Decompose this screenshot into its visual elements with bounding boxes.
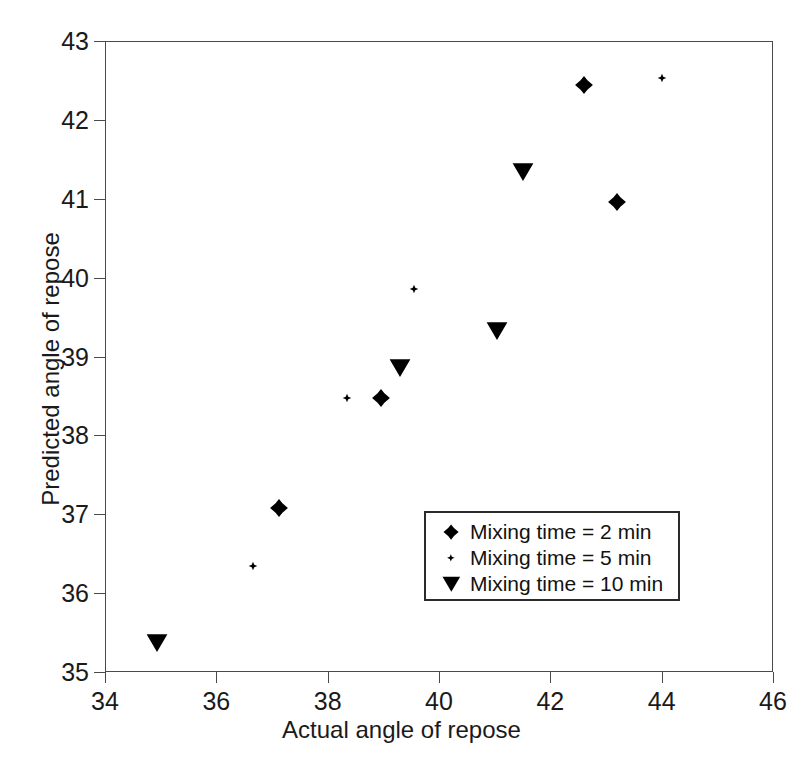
x-axis-tick: [550, 672, 551, 683]
x-axis-tick: [773, 672, 774, 683]
x-axis-tick-label: 34: [91, 687, 119, 716]
x-axis-tick: [662, 672, 663, 683]
y-axis-tick: [94, 593, 105, 594]
legend-label: Mixing time = 2 min: [470, 520, 651, 544]
legend-entry: Mixing time = 5 min: [426, 545, 678, 571]
y-axis-tick: [94, 672, 105, 673]
y-axis-tick-label: 37: [61, 500, 89, 529]
scatter-plot-figure: 353637383940414243 34363840424446 Mixing…: [0, 0, 803, 770]
x-axis-tick: [216, 672, 217, 683]
data-point: [248, 561, 257, 570]
data-point: [486, 322, 508, 341]
y-axis-tick-label: 40: [61, 263, 89, 292]
x-axis-tick-label: 44: [648, 687, 676, 716]
legend: Mixing time = 2 minMixing time = 5 minMi…: [424, 511, 680, 601]
y-axis-tick-label: 38: [61, 421, 89, 450]
legend-label: Mixing time = 10 min: [470, 572, 663, 596]
data-point: [608, 192, 627, 211]
y-axis-tick: [94, 514, 105, 515]
y-axis-tick-label: 43: [61, 27, 89, 56]
data-point: [409, 284, 418, 293]
y-axis-tick-label: 35: [61, 658, 89, 687]
x-axis-tick-label: 38: [314, 687, 342, 716]
y-axis-tick-label: 41: [61, 184, 89, 213]
data-point: [389, 358, 411, 377]
small-dot-icon: [436, 554, 466, 562]
y-axis-tick: [94, 41, 105, 42]
x-axis-tick-label: 42: [536, 687, 564, 716]
y-axis-tick: [94, 357, 105, 358]
x-axis-tick-label: 40: [425, 687, 453, 716]
legend-entry: Mixing time = 2 min: [426, 519, 678, 545]
filled-down-triangle-icon: [436, 576, 466, 592]
data-point: [371, 389, 390, 408]
y-axis-tick: [94, 199, 105, 200]
x-axis-tick: [105, 672, 106, 683]
data-point: [512, 162, 534, 181]
y-axis-tick-label: 36: [61, 579, 89, 608]
y-axis-tick: [94, 120, 105, 121]
y-axis-tick: [94, 435, 105, 436]
x-axis-tick-label: 46: [759, 687, 787, 716]
y-axis-tick-label: 39: [61, 342, 89, 371]
x-axis-tick: [439, 672, 440, 683]
data-point: [343, 393, 352, 402]
x-axis-title: Actual angle of repose: [0, 716, 803, 744]
legend-entry: Mixing time = 10 min: [426, 571, 678, 597]
data-point: [574, 76, 593, 95]
y-axis-tick: [94, 278, 105, 279]
data-point: [146, 633, 168, 652]
legend-label: Mixing time = 5 min: [470, 546, 651, 570]
x-axis-tick-label: 36: [202, 687, 230, 716]
x-axis-tick: [328, 672, 329, 683]
data-point: [270, 498, 289, 517]
y-axis-title: Predicted angle of repose: [37, 49, 65, 689]
y-axis-tick-label: 42: [61, 105, 89, 134]
data-point: [657, 74, 666, 83]
filled-diamond-icon: [436, 524, 466, 540]
